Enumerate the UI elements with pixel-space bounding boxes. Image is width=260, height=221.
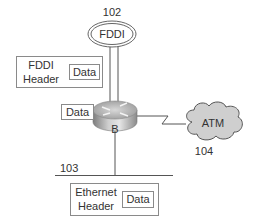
- fddi-ref-label: 102: [103, 6, 121, 18]
- fddi-data-label: Data: [73, 66, 97, 78]
- fddi-ring-label: FDDI: [99, 28, 125, 40]
- fddi-frame: FDDI Header Data: [17, 57, 103, 88]
- ethernet-frame: Ethernet Header Data: [71, 184, 159, 216]
- atm-cloud-label: ATM: [202, 117, 224, 129]
- atm-ref-label: 104: [195, 145, 213, 157]
- router-label: B: [111, 123, 118, 135]
- ethernet-header-line1: Ethernet: [75, 186, 117, 198]
- serial-link-line: [135, 116, 186, 124]
- ethernet-data-label: Data: [126, 193, 150, 205]
- fddi-header-line2: Header: [23, 73, 59, 85]
- ethernet-header-line2: Header: [78, 200, 114, 212]
- router-data-label: Data: [66, 106, 90, 118]
- fddi-header-line1: FDDI: [28, 59, 54, 71]
- network-diagram: 102 FDDI FDDI Header Data B Data ATM: [0, 0, 260, 221]
- ethernet-ref-label: 103: [60, 162, 78, 174]
